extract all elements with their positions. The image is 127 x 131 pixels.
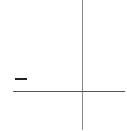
minus-sign-mark [15,78,27,80]
horizontal-axis-line [13,91,125,92]
vertical-axis-line [82,0,83,130]
